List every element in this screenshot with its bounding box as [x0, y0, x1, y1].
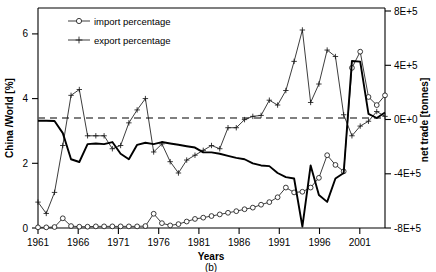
y-right-tick-0e0: 0E+0 [394, 114, 418, 125]
y-axis-right-ticks: 8E+5 4E+5 0E+0 -4E+5 -8E+5 [385, 6, 421, 234]
x-tick-1996: 1996 [308, 237, 331, 248]
legend-label-import: import percentage [94, 16, 171, 27]
data-point-marker [267, 200, 272, 205]
data-point-marker [118, 224, 123, 229]
figure-caption: (b) [205, 262, 217, 272]
data-point-marker [201, 215, 206, 220]
x-axis-title: Years [198, 251, 225, 262]
data-point-marker [209, 214, 214, 219]
data-point-marker [234, 209, 239, 214]
data-point-marker [93, 224, 98, 229]
y-left-tick-0: 0 [22, 223, 28, 234]
data-point-marker [126, 224, 131, 229]
y-left-tick-4: 4 [22, 93, 28, 104]
x-tick-1986: 1986 [228, 237, 251, 248]
legend: import percentage export percentage [68, 16, 171, 46]
chart-svg: 0 2 4 6 8E+5 4E+5 0E+0 -4E+5 -8E+5 [0, 0, 436, 272]
y-right-tick-4e5: 4E+5 [394, 60, 418, 71]
data-point-marker [176, 222, 181, 227]
data-point-marker [102, 224, 107, 229]
data-point-marker [36, 225, 41, 230]
data-point-marker [317, 175, 322, 180]
open-circle-icon [76, 18, 81, 23]
legend-label-export: export percentage [94, 35, 171, 46]
data-point-marker [77, 224, 82, 229]
data-point-marker [374, 103, 379, 108]
data-point-marker [358, 49, 363, 54]
x-tick-1976: 1976 [148, 237, 171, 248]
data-point-marker [259, 202, 264, 207]
x-tick-1966: 1966 [67, 237, 90, 248]
data-point-marker [52, 225, 57, 230]
data-point-marker [160, 221, 165, 226]
data-point-marker [110, 224, 115, 229]
data-point-marker [135, 224, 140, 229]
data-point-marker [60, 216, 65, 221]
data-point-marker [242, 207, 247, 212]
x-tick-1981: 1981 [188, 237, 211, 248]
data-point-marker [308, 185, 313, 190]
x-tick-1961: 1961 [27, 237, 50, 248]
data-point-marker [275, 195, 280, 200]
y-left-tick-6: 6 [22, 28, 28, 39]
legend-entry-export[interactable]: export percentage [68, 35, 171, 46]
data-point-marker [300, 189, 305, 194]
data-point-marker [151, 211, 156, 216]
data-point-marker [250, 205, 255, 210]
series-export-percentage [35, 27, 387, 216]
legend-entry-import[interactable]: import percentage [68, 16, 171, 27]
figure-panel-b: 0 2 4 6 8E+5 4E+5 0E+0 -4E+5 -8E+5 [0, 0, 436, 272]
series-line [38, 52, 385, 228]
y-right-tick-neg4e5: -4E+5 [394, 168, 421, 179]
y-right-tick-8e5: 8E+5 [394, 6, 418, 17]
x-tick-2001: 2001 [349, 237, 372, 248]
data-point-marker [168, 223, 173, 228]
data-point-marker [283, 185, 288, 190]
data-point-marker [85, 224, 90, 229]
x-tick-1991: 1991 [268, 237, 291, 248]
y-axis-right-title: net trade [tonnes] [419, 78, 430, 162]
x-axis-ticks: 1961 1966 1971 1976 1981 1986 1991 1996 … [27, 228, 371, 248]
data-point-marker [226, 210, 231, 215]
y-axis-left-ticks: 0 2 4 6 [22, 28, 38, 233]
data-point-marker [184, 219, 189, 224]
y-axis-left-title: China /World [%] [4, 78, 15, 158]
x-tick-1971: 1971 [107, 237, 130, 248]
y-right-tick-neg8e5: -8E+5 [394, 223, 421, 234]
data-point-marker [143, 224, 148, 229]
data-point-marker [217, 212, 222, 217]
y-left-tick-2: 2 [22, 158, 28, 169]
data-point-marker [69, 224, 74, 229]
data-point-marker [44, 225, 49, 230]
data-point-marker [383, 93, 388, 98]
data-point-marker [333, 163, 338, 168]
data-point-marker [193, 217, 198, 222]
data-point-marker [325, 153, 330, 158]
series-import-percentage [36, 49, 388, 229]
data-series-layer [35, 27, 387, 229]
